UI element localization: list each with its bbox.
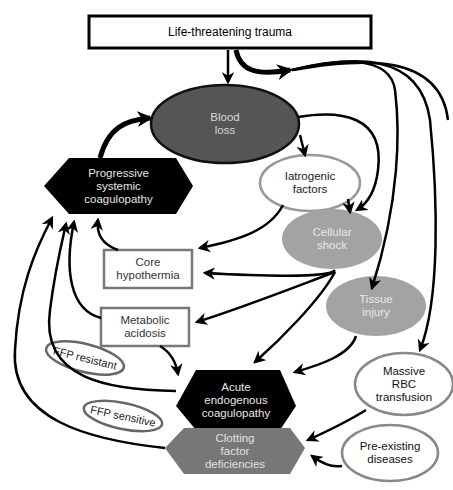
- trauma-label: Life-threatening trauma: [89, 16, 371, 48]
- core-hypothermia-label: Core hypothermia: [104, 250, 192, 288]
- massive-rbc-label: Massive RBC transfusion: [355, 353, 453, 415]
- blood-loss-label: Blood loss: [151, 85, 299, 163]
- progressive-label: Progressive systemic coagulopathy: [44, 158, 193, 214]
- iatrogenic-label: Iatrogenic factors: [260, 155, 360, 211]
- cellular-shock-label: Cellular shock: [282, 209, 382, 269]
- metabolic-acidosis-label: Metabolic acidosis: [101, 308, 189, 346]
- tissue-injury-label: Tissue injury: [326, 276, 426, 336]
- pre-existing-label: Pre-existing diseases: [342, 425, 438, 481]
- acute-endogenous-label: Acute endogenous coagulopathy: [176, 370, 296, 430]
- clotting-factor-label: Clotting factor deficiencies: [165, 428, 305, 474]
